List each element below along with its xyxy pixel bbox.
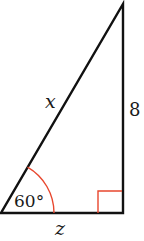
angle-label: 60°	[14, 191, 44, 211]
vertical-side-label: 8	[129, 99, 140, 120]
triangle-diagram: x 8 60° z	[0, 0, 144, 241]
hypotenuse-label: x	[45, 90, 56, 112]
triangle	[1, 4, 123, 213]
right-angle-marker	[98, 191, 122, 213]
base-label: z	[54, 217, 66, 239]
